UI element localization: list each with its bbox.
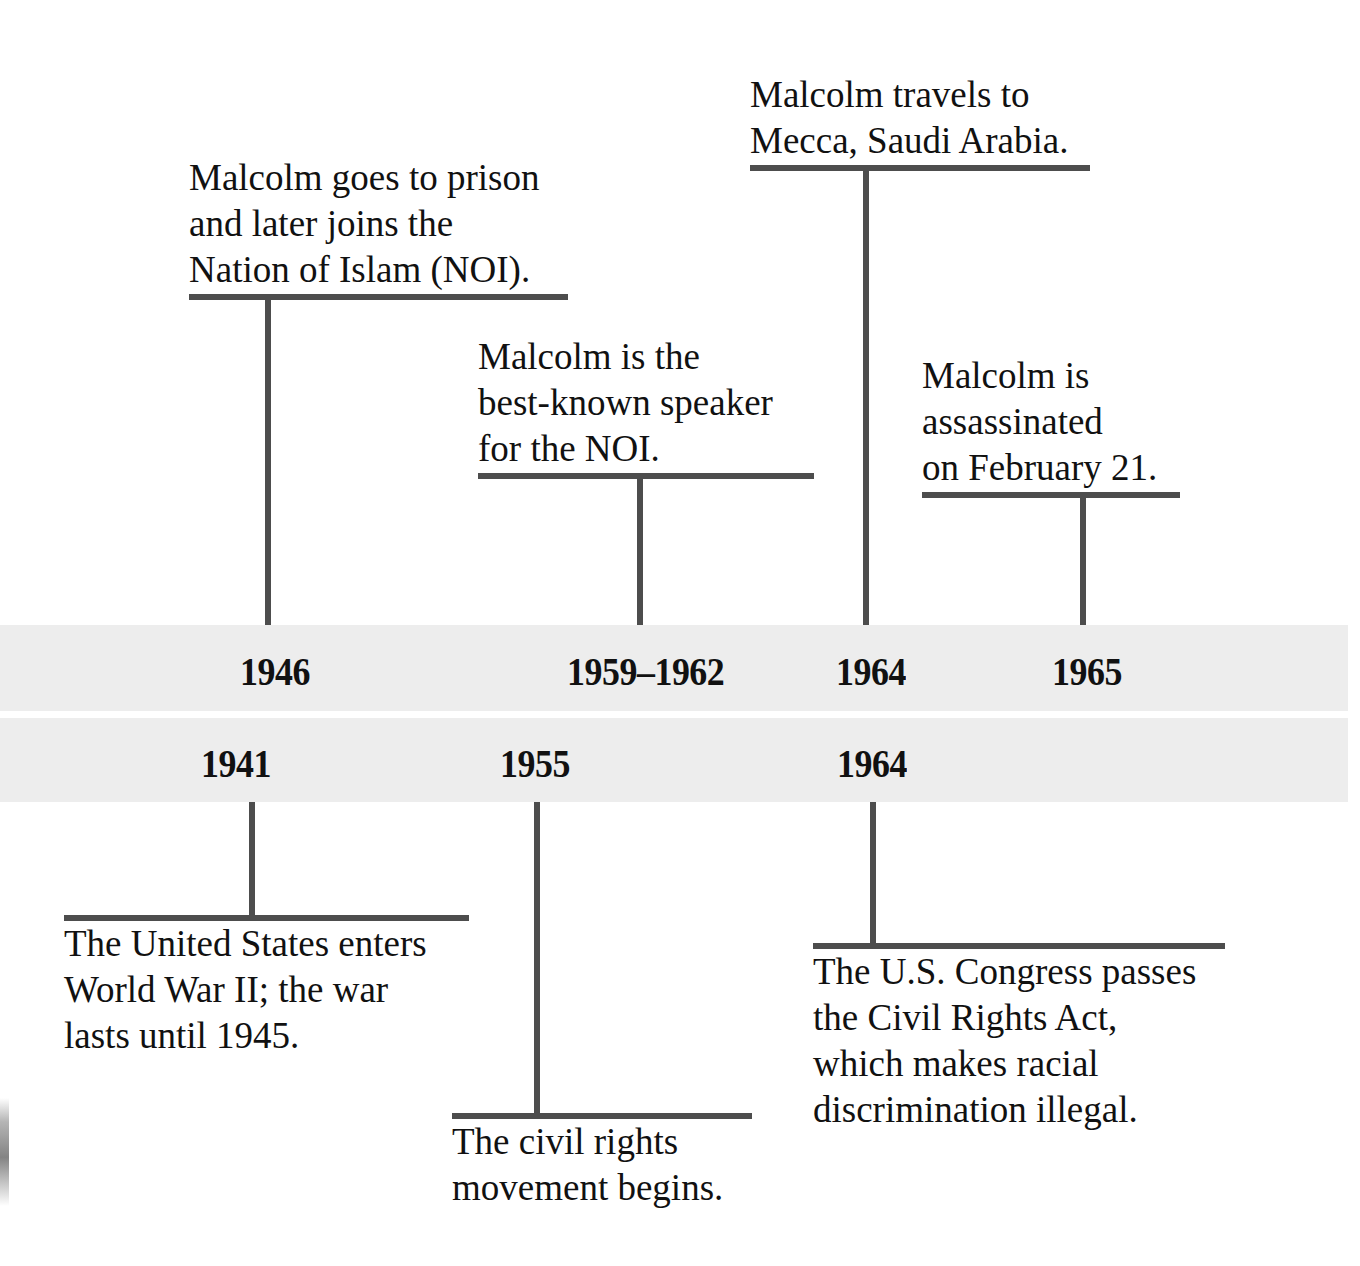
callout-1964-civil-rights-stem [870, 802, 876, 943]
callout-1955-stem [534, 802, 540, 1113]
callout-1959-1962-stem [637, 473, 643, 625]
callout-1964-civil-rights-line-1: The U.S. Congress passes [813, 949, 1196, 995]
callout-1946-stem [265, 294, 271, 625]
callout-1964-mecca-text: Malcolm travels to Mecca, Saudi Arabia. [750, 72, 1069, 164]
callout-1941-text: The United States enters World War II; t… [64, 921, 427, 1059]
callout-1965-rule [922, 492, 1180, 498]
callout-1946-line-3: Nation of Islam (NOI). [189, 247, 539, 293]
callout-1959-1962-line-1: Malcolm is the [478, 334, 773, 380]
callout-1959-1962-rule [478, 473, 814, 479]
year-label-1955: 1955 [500, 744, 570, 783]
year-label-1959-1962: 1959–1962 [567, 652, 724, 691]
callout-1964-civil-rights-line-4: discrimination illegal. [813, 1087, 1196, 1133]
callout-1964-civil-rights-text: The U.S. Congress passes the Civil Right… [813, 949, 1196, 1133]
callout-1946-line-1: Malcolm goes to prison [189, 155, 539, 201]
callout-1941-line-1: The United States enters [64, 921, 427, 967]
callout-1964-mecca-rule [750, 165, 1090, 171]
callout-1941-line-2: World War II; the war [64, 967, 427, 1013]
callout-1964-civil-rights-line-2: the Civil Rights Act, [813, 995, 1196, 1041]
year-label-1964-upper: 1964 [836, 652, 906, 691]
year-label-1965: 1965 [1052, 652, 1122, 691]
callout-1955-text: The civil rights movement begins. [452, 1119, 723, 1211]
callout-1959-1962-text: Malcolm is the best-known speaker for th… [478, 334, 773, 472]
callout-1965-line-2: assassinated [922, 399, 1157, 445]
callout-1965-stem [1080, 492, 1086, 625]
callout-1955-line-1: The civil rights [452, 1119, 723, 1165]
year-label-1946: 1946 [240, 652, 310, 691]
callout-1965-line-3: on February 21. [922, 445, 1157, 491]
callout-1964-mecca-line-1: Malcolm travels to [750, 72, 1069, 118]
timeline-figure: Malcolm goes to prison and later joins t… [0, 0, 1360, 1266]
callout-1946-rule [189, 294, 568, 300]
scan-edge-artifact [0, 1098, 9, 1206]
callout-1959-1962-line-3: for the NOI. [478, 426, 773, 472]
year-label-1964-lower: 1964 [837, 744, 907, 783]
callout-1946-line-2: and later joins the [189, 201, 539, 247]
callout-1964-mecca-stem [863, 165, 869, 625]
year-label-1941: 1941 [201, 744, 271, 783]
callout-1941-stem [249, 802, 255, 915]
callout-1959-1962-line-2: best-known speaker [478, 380, 773, 426]
callout-1965-text: Malcolm is assassinated on February 21. [922, 353, 1157, 491]
callout-1946-text: Malcolm goes to prison and later joins t… [189, 155, 539, 293]
callout-1964-mecca-line-2: Mecca, Saudi Arabia. [750, 118, 1069, 164]
callout-1941-line-3: lasts until 1945. [64, 1013, 427, 1059]
callout-1964-civil-rights-line-3: which makes racial [813, 1041, 1196, 1087]
callout-1955-line-2: movement begins. [452, 1165, 723, 1211]
callout-1965-line-1: Malcolm is [922, 353, 1157, 399]
